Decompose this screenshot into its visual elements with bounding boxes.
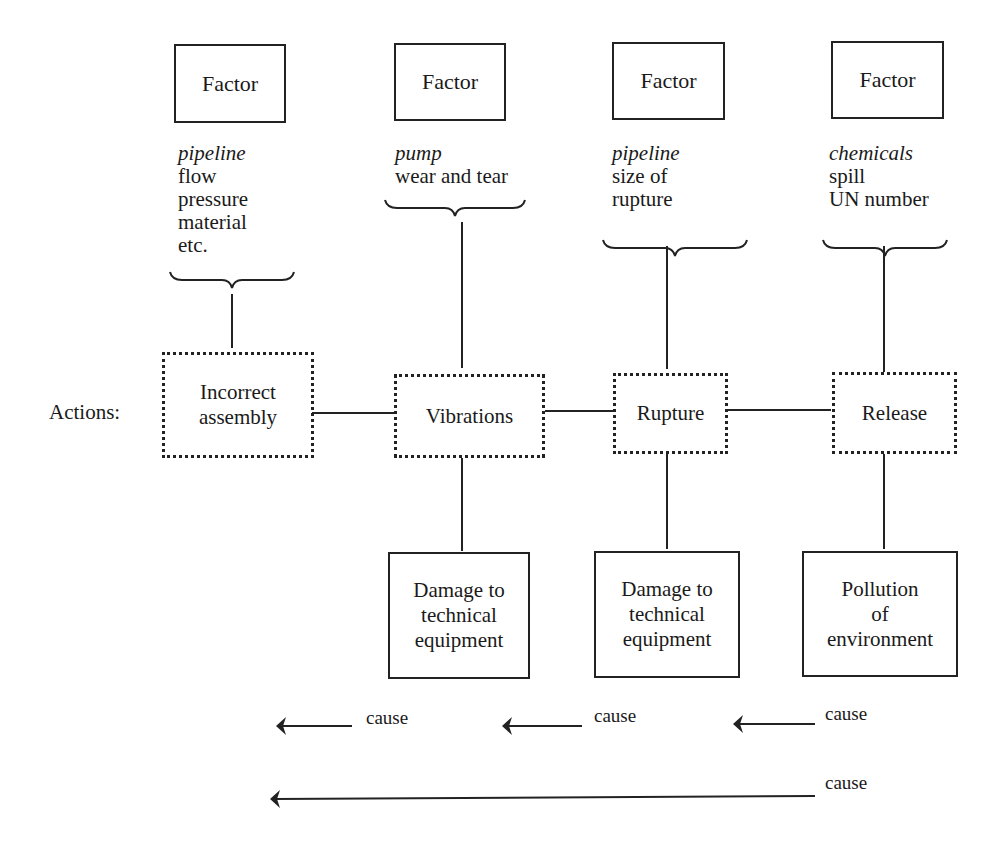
factor-category: pipeline bbox=[178, 142, 248, 165]
actions-label: Actions: bbox=[49, 400, 120, 425]
consequence-text: of bbox=[827, 602, 933, 627]
cause-label-3: cause bbox=[825, 703, 867, 725]
factor-box-pipeline-1: Factor bbox=[174, 44, 286, 123]
factor-detail: rupture bbox=[612, 188, 680, 211]
action-box-release: Release bbox=[832, 372, 957, 454]
action-text: Incorrect bbox=[199, 380, 277, 405]
action-box-incorrect-assembly: Incorrect assembly bbox=[162, 352, 314, 458]
cause-label-1: cause bbox=[366, 707, 408, 729]
factor-box-chemicals: Factor bbox=[831, 41, 944, 119]
action-box-rupture: Rupture bbox=[613, 373, 728, 454]
factor-label: Factor bbox=[859, 67, 915, 93]
factor-details-pump: pump wear and tear bbox=[395, 142, 508, 188]
action-text: assembly bbox=[199, 405, 277, 430]
factor-box-pump: Factor bbox=[394, 43, 506, 121]
factor-detail: pressure bbox=[178, 188, 248, 211]
consequence-text: environment bbox=[827, 627, 933, 652]
factor-details-pipeline-2: pipeline size of rupture bbox=[612, 142, 680, 211]
factor-detail: material bbox=[178, 211, 248, 234]
consequence-box-damage-2: Damage to technical equipment bbox=[594, 551, 740, 678]
factor-details-chemicals: chemicals spill UN number bbox=[829, 142, 929, 211]
cause-label-overall: cause bbox=[825, 772, 867, 794]
factor-category: pipeline bbox=[612, 142, 680, 165]
consequence-text: technical bbox=[621, 602, 713, 627]
consequence-text: Damage to bbox=[413, 578, 505, 603]
factor-category: chemicals bbox=[829, 142, 929, 165]
action-text: Rupture bbox=[637, 401, 705, 426]
brace-factor-2 bbox=[385, 200, 525, 216]
factor-detail: UN number bbox=[829, 188, 929, 211]
factor-details-pipeline-1: pipeline flow pressure material etc. bbox=[178, 142, 248, 257]
factor-detail: flow bbox=[178, 165, 248, 188]
action-text: Vibrations bbox=[426, 404, 513, 429]
action-box-vibrations: Vibrations bbox=[394, 374, 545, 458]
factor-detail: spill bbox=[829, 165, 929, 188]
factor-label: Factor bbox=[202, 71, 258, 97]
consequence-text: technical bbox=[413, 603, 505, 628]
factor-box-pipeline-2: Factor bbox=[612, 42, 725, 120]
consequence-text: Damage to bbox=[621, 577, 713, 602]
consequence-text: equipment bbox=[413, 628, 505, 653]
cause-label-2: cause bbox=[594, 705, 636, 727]
factor-detail: wear and tear bbox=[395, 165, 508, 188]
consequence-text: Pollution bbox=[827, 577, 933, 602]
brace-factor-3 bbox=[603, 240, 747, 256]
brace-factor-1 bbox=[170, 272, 294, 288]
consequence-text: equipment bbox=[621, 627, 713, 652]
factor-label: Factor bbox=[640, 68, 696, 94]
consequence-box-pollution: Pollution of environment bbox=[802, 551, 958, 677]
factor-label: Factor bbox=[422, 69, 478, 95]
factor-category: pump bbox=[395, 142, 508, 165]
action-text: Release bbox=[862, 401, 927, 426]
factor-detail: size of bbox=[612, 165, 680, 188]
consequence-box-damage-1: Damage to technical equipment bbox=[388, 552, 530, 679]
factor-detail: etc. bbox=[178, 234, 248, 257]
